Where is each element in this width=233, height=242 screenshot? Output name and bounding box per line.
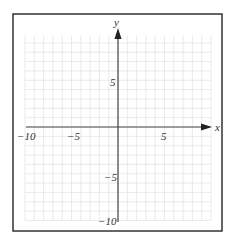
y-tick-label-5: 5 bbox=[110, 76, 116, 88]
y-tick-label-neg5: −5 bbox=[104, 171, 117, 183]
x-tick-label-neg5: −5 bbox=[67, 130, 80, 142]
x-tick-label-5: 5 bbox=[161, 130, 167, 142]
x-tick-label-neg10: −10 bbox=[17, 130, 36, 142]
x-axis-label: x bbox=[214, 121, 220, 133]
y-tick-label-neg10: −10 bbox=[98, 215, 117, 227]
y-axis-label: y bbox=[113, 16, 119, 28]
coordinate-plane: x y −10 −5 5 5 −5 −10 bbox=[0, 0, 233, 242]
